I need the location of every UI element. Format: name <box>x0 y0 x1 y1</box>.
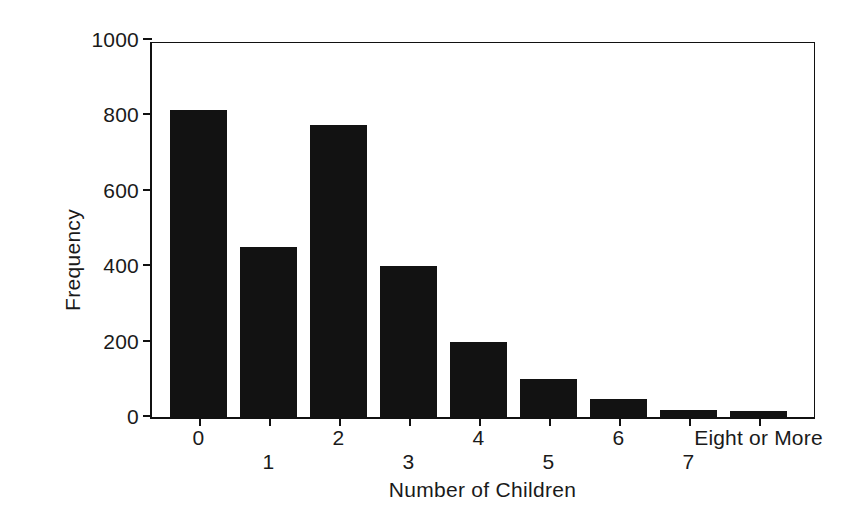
bar <box>590 399 647 417</box>
bar <box>660 410 717 417</box>
bar-chart-figure: Frequency 02004006008001000 01234567Eigh… <box>0 0 864 520</box>
bar <box>380 266 437 417</box>
x-axis-tick-label: 5 <box>543 450 555 474</box>
x-axis-tick-mark <box>549 417 551 426</box>
bar <box>450 342 507 417</box>
y-axis-title: Frequency <box>61 209 85 311</box>
x-axis-tick-label: 6 <box>613 426 625 450</box>
plot-area: 02004006008001000 01234567Eight or More <box>150 42 815 419</box>
y-axis-tick-mark <box>143 113 152 115</box>
x-axis-tick-mark <box>619 417 621 426</box>
y-axis-tick-mark <box>143 189 152 191</box>
x-axis-tick-label: 1 <box>263 450 275 474</box>
x-axis-tick-label: 3 <box>403 450 415 474</box>
x-axis-tick-mark <box>269 417 271 426</box>
x-axis-tick-mark <box>339 417 341 426</box>
x-axis-tick-mark <box>409 417 411 426</box>
x-axis-tick-mark <box>199 417 201 426</box>
x-axis-tick-label: 4 <box>473 426 485 450</box>
x-axis-title: Number of Children <box>150 478 815 502</box>
y-axis-tick-mark <box>143 415 152 417</box>
y-axis-tick-label: 0 <box>127 405 139 429</box>
y-axis-tick-label: 200 <box>103 330 139 354</box>
y-axis-tick-label: 800 <box>103 103 139 127</box>
x-axis-tick-label: 7 <box>683 450 695 474</box>
y-axis-tick-label: 1000 <box>91 28 139 52</box>
x-axis-tick-label: 0 <box>193 426 205 450</box>
bar <box>240 247 297 417</box>
x-axis-tick-mark <box>479 417 481 426</box>
x-axis-tick-label: 2 <box>333 426 345 450</box>
y-axis-tick-label: 400 <box>103 254 139 278</box>
x-axis-tick-mark <box>689 417 691 426</box>
x-axis-tick-label: Eight or More <box>694 426 823 450</box>
x-axis-tick-mark <box>759 417 761 426</box>
bar <box>520 379 577 417</box>
bar <box>310 125 367 417</box>
y-axis-tick-mark <box>143 38 152 40</box>
y-axis-tick-label: 600 <box>103 179 139 203</box>
y-axis-tick-mark <box>143 340 152 342</box>
bar <box>170 110 227 417</box>
y-axis-tick-mark <box>143 264 152 266</box>
bar-series <box>152 43 814 417</box>
